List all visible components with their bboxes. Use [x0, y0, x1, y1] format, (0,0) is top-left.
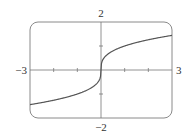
chart: −3 3 2 −2	[0, 0, 189, 134]
x-min-label: −3	[15, 64, 27, 76]
y-min-label: −2	[95, 121, 107, 133]
x-max-label: 3	[176, 64, 182, 76]
y-max-label: 2	[98, 7, 104, 19]
